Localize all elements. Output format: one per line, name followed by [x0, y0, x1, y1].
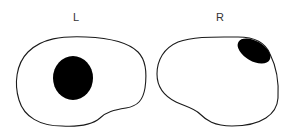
diagram: L R: [0, 0, 293, 138]
left-label: L: [73, 11, 79, 23]
right-label: R: [216, 11, 224, 23]
left-lesion: [53, 56, 93, 100]
